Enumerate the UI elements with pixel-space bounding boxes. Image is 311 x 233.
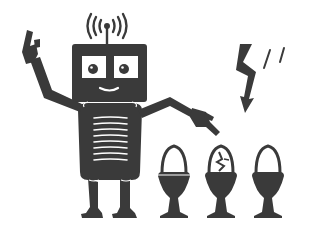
signal-waves-icon (88, 14, 127, 44)
egg-cup-icon (157, 146, 191, 218)
egg-cup-icon (252, 146, 284, 218)
robot-eggs-illustration (0, 0, 311, 233)
illustration (0, 0, 311, 233)
cracked-egg-cup-icon (205, 146, 237, 218)
lightning-bolt-icon (236, 44, 284, 113)
robot-icon (22, 30, 220, 218)
